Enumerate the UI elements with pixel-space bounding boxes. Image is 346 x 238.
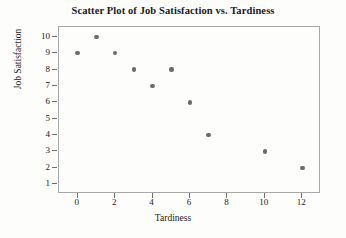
x-tick-label: 6 [174, 197, 204, 207]
scatter-plot-figure: Scatter Plot of Job Satisfaction vs. Tar… [0, 0, 346, 238]
data-point [263, 149, 268, 154]
y-tick-mark [52, 134, 57, 135]
y-tick-mark [52, 36, 57, 37]
y-tick-label: 9 [10, 47, 50, 57]
x-axis-title: Tardiness [0, 213, 346, 223]
data-point [113, 51, 118, 56]
y-tick-label: 7 [10, 80, 50, 90]
chart-title: Scatter Plot of Job Satisfaction vs. Tar… [0, 5, 346, 16]
y-tick-mark [52, 52, 57, 53]
data-point [188, 100, 193, 105]
data-point [206, 133, 211, 138]
y-tick-label: 1 [10, 178, 50, 188]
y-tick-mark [52, 150, 57, 151]
x-tick-label: 4 [137, 197, 167, 207]
x-tick-label: 10 [249, 197, 279, 207]
data-point [75, 51, 80, 56]
y-tick-label: 6 [10, 96, 50, 106]
y-tick-mark [52, 167, 57, 168]
data-point [300, 166, 305, 171]
y-tick-label: 3 [10, 145, 50, 155]
x-tick-label: 8 [211, 197, 241, 207]
data-point [94, 35, 99, 40]
y-tick-label: 10 [10, 31, 50, 41]
y-tick-label: 4 [10, 129, 50, 139]
x-tick-label: 2 [99, 197, 129, 207]
y-tick-mark [52, 85, 57, 86]
x-tick-label: 12 [286, 197, 316, 207]
data-point [132, 67, 137, 72]
y-tick-label: 5 [10, 113, 50, 123]
data-point [169, 67, 174, 72]
y-tick-label: 8 [10, 64, 50, 74]
y-tick-mark [52, 69, 57, 70]
data-points-layer [59, 27, 319, 192]
plot-area [58, 26, 320, 193]
y-tick-mark [52, 183, 57, 184]
x-tick-label: 0 [62, 197, 92, 207]
y-tick-mark [52, 118, 57, 119]
y-tick-mark [52, 101, 57, 102]
data-point [150, 84, 155, 89]
y-tick-label: 2 [10, 162, 50, 172]
